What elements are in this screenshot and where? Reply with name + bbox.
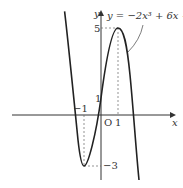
y-tick-5: 5	[94, 23, 100, 34]
cubic-curve	[65, 11, 139, 180]
y-tick-neg3: −3	[103, 160, 118, 171]
origin-label: O	[104, 117, 112, 128]
x-tick-1: 1	[115, 117, 121, 128]
label-leader-line	[128, 25, 143, 52]
y-axis-label: y	[93, 8, 100, 19]
x-tick-neg1: −1	[73, 103, 88, 114]
function-label: y = −2x³ + 6x + 1	[106, 10, 183, 21]
x-axis-label: x	[172, 117, 178, 128]
function-graph: y y = −2x³ + 6x + 1 5 1 −1 O 1 x −3	[0, 0, 183, 188]
y-tick-1: 1	[95, 93, 101, 104]
